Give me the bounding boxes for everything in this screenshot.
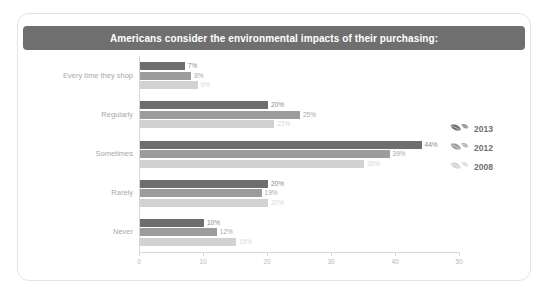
bar-2008-sometimes <box>140 160 364 168</box>
bar-2008-never <box>140 238 236 246</box>
leaf-icon <box>449 160 469 174</box>
x-axis-tick <box>139 252 140 256</box>
bar-value-label: 25% <box>303 111 316 119</box>
bar-value-label: 9% <box>201 81 210 89</box>
bar-value-label: 15% <box>239 238 252 246</box>
bar-2013-sometimes <box>140 141 422 149</box>
bar-2008-every-time-they-shop <box>140 81 198 89</box>
chart-screenshot: Americans consider the environmental imp… <box>0 0 548 294</box>
legend-item-2008[interactable]: 2008 <box>449 157 519 176</box>
bar-2008-regularly <box>140 120 274 128</box>
bar-2013-never <box>140 219 204 227</box>
category-label: Rarely <box>111 188 133 197</box>
bar-value-label: 12% <box>220 228 233 236</box>
bar-2008-rarely <box>140 199 268 207</box>
bar-value-label: 21% <box>277 120 290 128</box>
bar-2012-regularly <box>140 111 300 119</box>
x-axis-tick-label: 50 <box>455 258 462 265</box>
bar-value-label: 20% <box>271 101 284 109</box>
bar-value-label: 8% <box>194 72 203 80</box>
x-axis-tick-label: 10 <box>199 258 206 265</box>
bar-value-label: 44% <box>425 141 438 149</box>
bar-2013-regularly <box>140 101 268 109</box>
bar-2013-rarely <box>140 180 268 188</box>
bars-area: 010203040507%8%9%20%25%21%44%39%35%20%19… <box>139 56 459 252</box>
leaf-icon <box>449 122 469 136</box>
x-axis-tick <box>459 252 460 256</box>
bar-2012-never <box>140 228 217 236</box>
bar-value-label: 10% <box>207 219 220 227</box>
category-labels: Every time they shopRegularlySometimesRa… <box>23 56 133 252</box>
category-label: Sometimes <box>95 149 133 158</box>
category-label: Never <box>113 227 133 236</box>
legend-label: 2013 <box>474 124 493 134</box>
legend-label: 2008 <box>474 162 493 172</box>
bar-2012-every-time-they-shop <box>140 72 191 80</box>
bar-value-label: 7% <box>188 62 197 70</box>
page-title: Americans consider the environmental imp… <box>110 33 438 44</box>
bar-value-label: 20% <box>271 180 284 188</box>
x-axis-tick-label: 20 <box>263 258 270 265</box>
bar-2012-sometimes <box>140 150 390 158</box>
x-axis-tick <box>267 252 268 256</box>
bar-value-label: 20% <box>271 199 284 207</box>
x-axis-tick <box>395 252 396 256</box>
chart-title-banner: Americans consider the environmental imp… <box>23 26 525 50</box>
x-axis-tick-label: 0 <box>137 258 141 265</box>
bar-value-label: 35% <box>367 160 380 168</box>
x-axis-tick <box>203 252 204 256</box>
bar-2013-every-time-they-shop <box>140 62 185 70</box>
x-axis-tick <box>331 252 332 256</box>
chart-legend: 201320122008 <box>449 119 519 176</box>
x-axis-line <box>139 252 459 253</box>
legend-item-2012[interactable]: 2012 <box>449 138 519 157</box>
x-axis-tick-label: 30 <box>327 258 334 265</box>
x-axis-tick-label: 40 <box>391 258 398 265</box>
legend-item-2013[interactable]: 2013 <box>449 119 519 138</box>
category-label: Regularly <box>101 110 133 119</box>
bar-value-label: 39% <box>393 150 406 158</box>
category-label: Every time they shop <box>63 71 133 80</box>
bar-value-label: 19% <box>265 189 278 197</box>
legend-label: 2012 <box>474 143 493 153</box>
bar-2012-rarely <box>140 189 262 197</box>
leaf-icon <box>449 141 469 155</box>
